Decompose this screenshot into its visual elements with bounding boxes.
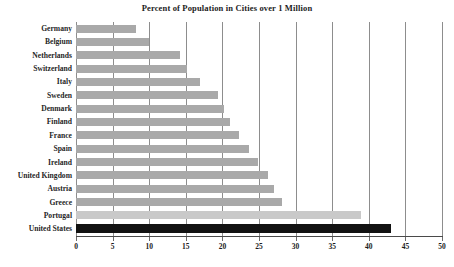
bar [76,185,274,193]
x-tick-mark [76,237,77,241]
category-label: Spain [0,142,72,155]
category-label: Ireland [0,156,72,169]
category-label: United States [0,222,72,235]
x-tick-label: 20 [219,242,227,251]
category-label: Denmark [0,102,72,115]
chart-row: United States [0,222,454,235]
category-label: Austria [0,182,72,195]
chart-row: Denmark [0,102,454,115]
x-tick-mark [113,237,114,241]
bar [76,211,361,219]
x-tick-label: 40 [365,242,373,251]
chart-title: Percent of Population in Cities over 1 M… [0,3,454,13]
category-label: Netherlands [0,49,72,62]
bar [76,25,136,33]
category-label: France [0,129,72,142]
chart-row: Spain [0,142,454,155]
chart-row: Switzerland [0,62,454,75]
x-tick-label: 15 [182,242,190,251]
bar [76,38,149,46]
chart-row: Ireland [0,156,454,169]
bar [76,105,224,113]
x-tick-label: 10 [145,242,153,251]
chart-container: Percent of Population in Cities over 1 M… [0,0,454,267]
x-tick-mark [369,237,370,241]
x-tick-mark [332,237,333,241]
category-label: Belgium [0,35,72,48]
x-tick-mark [296,237,297,241]
bar [76,51,180,59]
category-label: Portugal [0,209,72,222]
x-tick-label: 50 [438,242,446,251]
x-tick-label: 30 [292,242,300,251]
x-tick-mark [442,237,443,241]
category-label: Finland [0,115,72,128]
chart-row: Belgium [0,35,454,48]
bar [76,78,200,86]
x-tick-mark [222,237,223,241]
x-tick-mark [259,237,260,241]
x-tick-mark [149,237,150,241]
bar [76,171,268,179]
x-tick-label: 0 [74,242,78,251]
x-tick-mark [186,237,187,241]
bar [76,224,391,233]
x-tick-mark [405,237,406,241]
chart-row: Austria [0,182,454,195]
chart-row: Greece [0,196,454,209]
bar [76,158,258,166]
category-label: Greece [0,196,72,209]
bar [76,198,282,206]
category-label: United Kingdom [0,169,72,182]
bar [76,145,249,153]
category-label: Italy [0,75,72,88]
bar [76,65,187,73]
chart-row: Finland [0,115,454,128]
x-tick-label: 25 [255,242,263,251]
x-tick-label: 5 [111,242,115,251]
category-label: Sweden [0,89,72,102]
chart-row: Sweden [0,89,454,102]
chart-row: Germany [0,22,454,35]
chart-row: Portugal [0,209,454,222]
chart-row: France [0,129,454,142]
category-label: Switzerland [0,62,72,75]
x-tick-label: 35 [328,242,336,251]
bar [76,91,218,99]
bar [76,131,239,139]
chart-row: Netherlands [0,49,454,62]
bar [76,118,230,126]
chart-row: United Kingdom [0,169,454,182]
x-tick-label: 45 [402,242,410,251]
chart-row: Italy [0,75,454,88]
category-label: Germany [0,22,72,35]
